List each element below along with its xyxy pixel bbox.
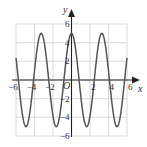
x-tick-label: −2 xyxy=(45,82,55,92)
x-tick-label: 4 xyxy=(110,82,115,92)
x-tick-label: −6 xyxy=(8,82,18,92)
x-axis-label: x xyxy=(137,83,143,94)
y-tick-label: −2 xyxy=(60,94,70,104)
y-tick-label: 2 xyxy=(65,56,70,66)
y-axis-label: y xyxy=(62,4,68,15)
x-tick-label: 6 xyxy=(128,82,133,92)
sine-graph: −6−4−2246642−2−4−6 x y O xyxy=(0,0,147,147)
y-tick-label: 6 xyxy=(65,19,70,29)
origin-label: O xyxy=(63,80,70,91)
x-tick-label: −4 xyxy=(27,82,37,92)
y-tick-label: −4 xyxy=(60,112,70,122)
y-axis-arrow-icon xyxy=(68,9,75,17)
x-tick-label: 2 xyxy=(91,82,96,92)
y-tick-label: −6 xyxy=(60,131,70,141)
y-tick-label: 4 xyxy=(65,38,70,48)
